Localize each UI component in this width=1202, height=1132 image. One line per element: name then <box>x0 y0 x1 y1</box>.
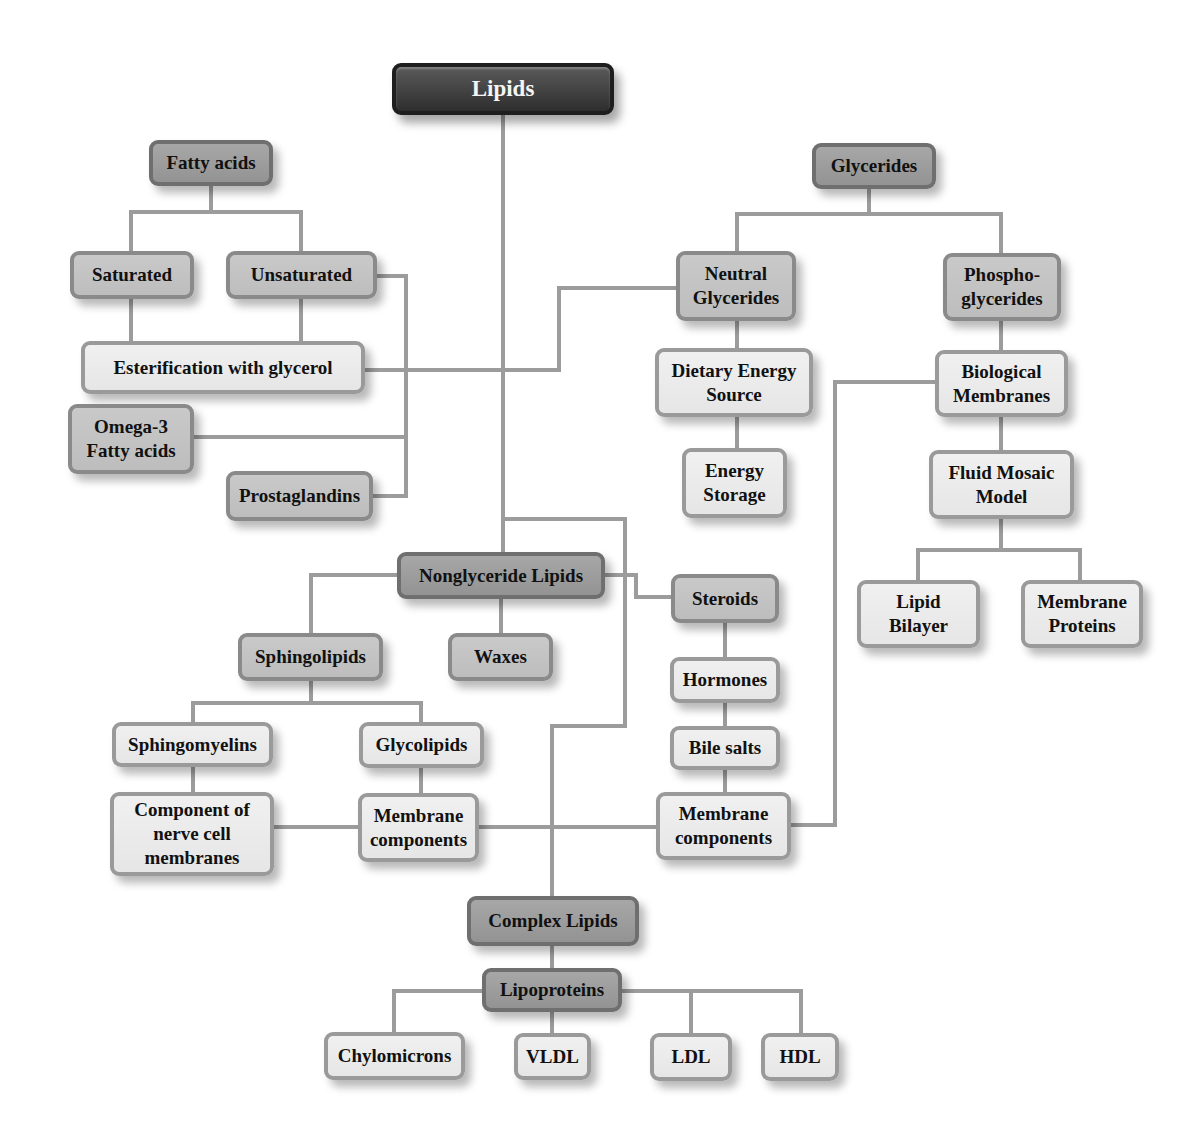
node-biological-membranes: Biological Membranes <box>935 350 1068 417</box>
node-sphingolipids: Sphingolipids <box>238 633 383 681</box>
node-lipids: Lipids <box>392 63 614 115</box>
node-complex-lipids: Complex Lipids <box>467 896 639 946</box>
node-fatty-acids: Fatty acids <box>149 140 273 186</box>
connector-fluid-children <box>918 518 1080 582</box>
node-ldl: LDL <box>650 1033 732 1081</box>
node-nerve-cell-membranes: Component of nerve cell membranes <box>110 792 274 876</box>
node-esterification: Esterification with glycerol <box>81 341 365 394</box>
node-phosphoglycerides: Phospho- glycerides <box>943 253 1061 321</box>
node-neutral-glycerides: Neutral Glycerides <box>676 251 796 321</box>
node-lipoproteins: Lipoproteins <box>482 968 622 1012</box>
node-sphingomyelins: Sphingomyelins <box>112 722 273 767</box>
lipids-concept-map: Lipids Fatty acids Saturated Unsaturated… <box>0 0 1202 1132</box>
connector-glycerides <box>737 188 1001 256</box>
node-unsaturated: Unsaturated <box>226 251 377 299</box>
node-dietary-energy: Dietary Energy Source <box>655 348 813 417</box>
node-vldl: VLDL <box>514 1033 591 1080</box>
node-fluid-mosaic: Fluid Mosaic Model <box>929 450 1074 519</box>
node-omega3: Omega-3 Fatty acids <box>68 404 194 474</box>
node-energy-storage: Energy Storage <box>682 448 787 518</box>
node-prostaglandins: Prostaglandins <box>226 471 373 521</box>
connector-fatty-acids <box>131 186 301 252</box>
node-glycerides: Glycerides <box>812 143 936 189</box>
node-bile-salts: Bile salts <box>670 726 780 770</box>
connector-sphingolipids-children <box>193 680 421 724</box>
node-steroids: Steroids <box>671 574 779 623</box>
node-steroid-membrane-components: Membrane components <box>656 792 791 860</box>
node-waxes: Waxes <box>448 633 553 681</box>
connector-nonglyceride-steroids <box>604 575 672 597</box>
node-lipid-bilayer: Lipid Bilayer <box>857 580 980 648</box>
node-hdl: HDL <box>761 1033 839 1081</box>
connector-esterification-neutral <box>364 288 678 370</box>
node-glyco-membrane-components: Membrane components <box>358 793 479 862</box>
node-nonglyceride-lipids: Nonglyceride Lipids <box>397 552 605 599</box>
connector-nonglyceride-sphingo <box>311 575 398 636</box>
node-saturated: Saturated <box>70 251 194 299</box>
node-hormones: Hormones <box>670 657 780 703</box>
node-chylomicrons: Chylomicrons <box>324 1032 465 1080</box>
node-membrane-proteins: Membrane Proteins <box>1021 580 1143 648</box>
node-glycolipids: Glycolipids <box>359 722 484 768</box>
